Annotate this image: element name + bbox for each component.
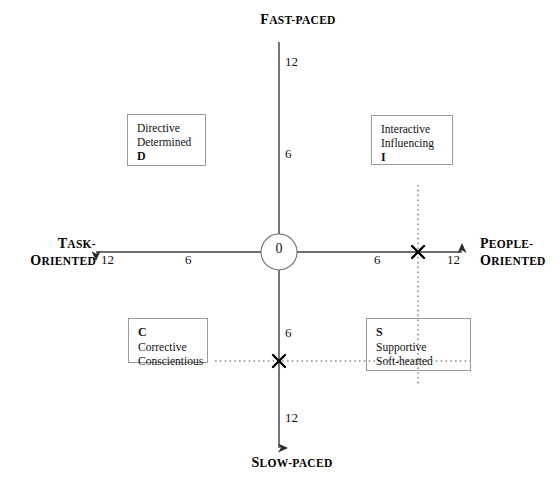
tick-label-up-6: 6 <box>285 146 292 162</box>
quadrant-box-directive: Directive Determined D <box>127 114 206 166</box>
quadrant-box-corrective: C Corrective Conscientious <box>128 318 208 363</box>
quadrant-c-line2: Conscientious <box>138 354 199 368</box>
tick-label-right-6: 6 <box>374 252 381 268</box>
quadrant-s-line1: Supportive <box>376 340 462 354</box>
axis-label-slow-paced: Slow-Paced <box>232 455 352 471</box>
quadrant-i-line1: Interactive <box>381 122 444 136</box>
axis-label-task-oriented: Task- Oriented <box>18 236 96 269</box>
tick-label-down-6: 6 <box>285 325 292 341</box>
quadrant-d-line2: Determined <box>137 135 197 149</box>
quadrant-s-letter: S <box>376 325 462 340</box>
axis-label-task-oriented-line2: Oriented <box>18 253 96 270</box>
tick-label-left-12: 12 <box>101 252 114 268</box>
quadrant-d-letter: D <box>137 149 197 164</box>
quadrant-i-line2: Influencing <box>381 136 444 150</box>
axis-label-people-oriented-line1: People- <box>480 236 559 253</box>
quadrant-c-line1: Corrective <box>138 340 199 354</box>
axis-label-slow-paced-text: Slow-Paced <box>232 455 352 471</box>
tick-label-up-12: 12 <box>285 54 298 70</box>
quadrant-d-line1: Directive <box>137 121 197 135</box>
axis-label-people-oriented: People- Oriented <box>480 236 559 269</box>
axis-label-task-oriented-line1: Task- <box>18 236 96 253</box>
disc-quadrant-diagram: 0 Fast-Paced Slow-Paced Task- Oriented P… <box>0 0 559 490</box>
tick-label-down-12: 12 <box>285 410 298 426</box>
tick-label-right-12: 12 <box>447 252 460 268</box>
quadrant-box-interactive: Interactive Influencing I <box>371 115 453 165</box>
tick-label-left-6: 6 <box>185 252 192 268</box>
quadrant-i-letter: I <box>381 150 444 165</box>
quadrant-s-line2: Soft-hearted <box>376 354 462 368</box>
axis-label-fast-paced: Fast-Paced <box>243 12 353 28</box>
axis-label-fast-paced-text: Fast-Paced <box>243 12 353 28</box>
origin-value: 0 <box>262 241 296 257</box>
axis-label-people-oriented-line2: Oriented <box>480 253 559 270</box>
quadrant-box-supportive: S Supportive Soft-hearted <box>366 318 471 371</box>
quadrant-c-letter: C <box>138 325 199 340</box>
